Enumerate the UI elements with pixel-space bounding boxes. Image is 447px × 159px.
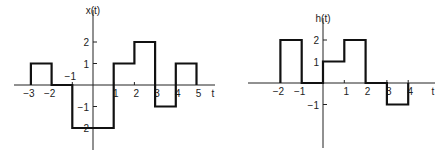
signal-diagram: x(t)t−3−2−11234521−1−2 h(t)t−2−1123421−1 [0, 0, 447, 159]
x-tick-label: 2 [365, 86, 371, 97]
x-tick-label: −1 [294, 86, 306, 97]
x-tick-label: −2 [273, 86, 285, 97]
y-tick-label: 2 [83, 37, 89, 48]
plot-x-of-t: x(t)t−3−2−11234521−1−2 [14, 5, 215, 150]
x-tick-label: −1 [65, 71, 77, 82]
x-tick-label: 1 [344, 86, 350, 97]
y-axis-label: x(t) [86, 5, 100, 16]
x-tick-label: −2 [44, 88, 56, 99]
y-tick-label: −1 [308, 100, 320, 111]
y-tick-label: 1 [313, 57, 319, 68]
t-axis-label: t [432, 86, 435, 97]
plot-h-of-t: h(t)t−2−1123421−1 [248, 13, 435, 148]
y-axis-label: h(t) [316, 13, 331, 24]
x-tick-label: −3 [23, 88, 35, 99]
x-tick-label: 2 [134, 88, 140, 99]
y-tick-label: 2 [313, 35, 319, 46]
x-tick-label: 5 [196, 88, 202, 99]
y-tick-label: −1 [78, 102, 90, 113]
y-tick-label: 1 [83, 59, 89, 70]
t-axis-label: t [212, 88, 215, 99]
